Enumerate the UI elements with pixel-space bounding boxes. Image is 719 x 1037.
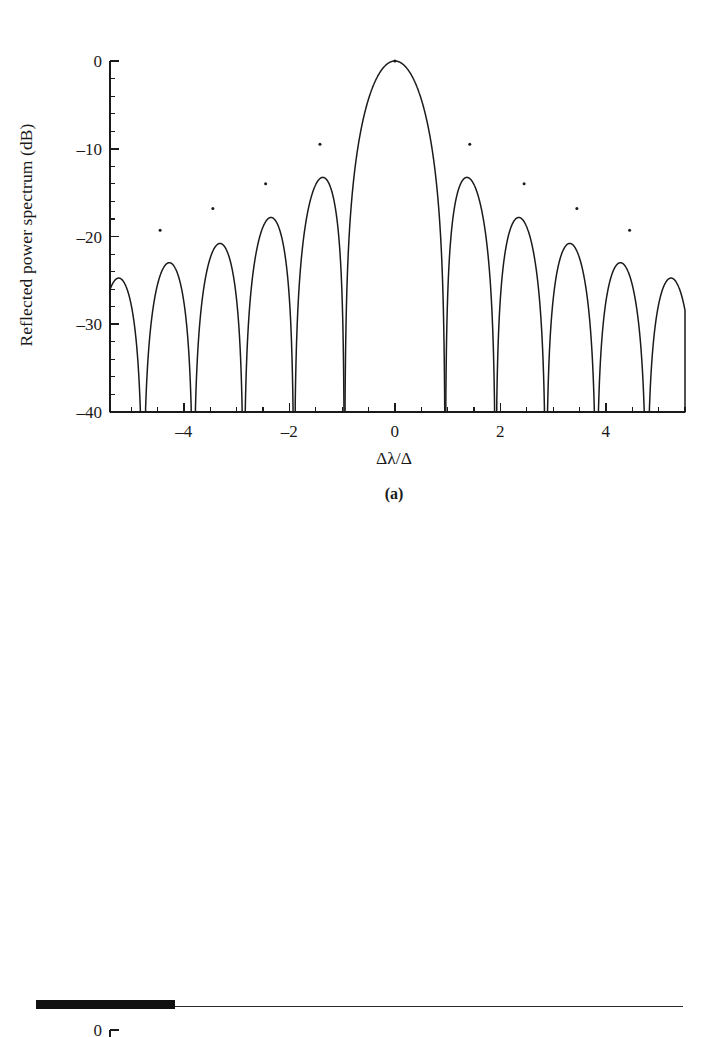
svg-text:–10: –10 — [76, 140, 103, 159]
panel-a: Reflected power spectrum (dB) 0–10–20–30… — [0, 0, 719, 500]
svg-text:–20: –20 — [76, 228, 103, 247]
figure-container: Reflected power spectrum (dB) 0–10–20–30… — [0, 0, 719, 1037]
svg-text:0: 0 — [94, 52, 103, 71]
plot-area-panel-a: 0–10–20–30–40–4–2024 — [0, 0, 719, 500]
svg-text:–30: –30 — [76, 315, 103, 334]
svg-text:–4: –4 — [174, 422, 193, 441]
svg-text:–2: –2 — [280, 422, 298, 441]
svg-text:4: 4 — [602, 422, 611, 441]
footer-black-block — [36, 1000, 175, 1009]
svg-text:2: 2 — [496, 422, 505, 441]
svg-text:0: 0 — [94, 1021, 103, 1037]
svg-text:0: 0 — [391, 422, 400, 441]
x-axis-label-panel-a: Δλ/Δ — [309, 448, 479, 469]
svg-text:–40: –40 — [76, 403, 103, 422]
panel-b: Reflected power spectrum (dB) 0–10–20–30… — [0, 500, 719, 990]
